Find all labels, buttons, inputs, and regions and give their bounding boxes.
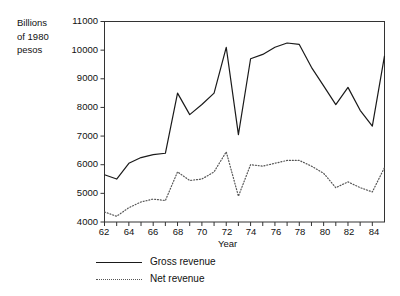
- legend-label-gross-revenue: Gross revenue: [150, 256, 216, 267]
- legend-swatch-dotted-line-icon: [96, 274, 142, 284]
- legend-label-net-revenue: Net revenue: [150, 273, 204, 284]
- x-axis-ticks: [105, 222, 373, 226]
- legend-item-gross-revenue: Gross revenue: [96, 253, 216, 270]
- legend-swatch-solid-line-icon: [96, 257, 142, 267]
- y-axis-ticks: [101, 22, 105, 223]
- legend-item-net-revenue: Net revenue: [96, 270, 216, 287]
- axis-frame: [105, 22, 385, 223]
- series-line-gross-revenue: [105, 43, 385, 179]
- legend: Gross revenue Net revenue: [96, 253, 216, 287]
- revenue-line-chart: Billions of 1980 pesos 11000 10000 9000 …: [0, 0, 400, 296]
- series-line-net-revenue: [105, 152, 385, 216]
- plot-area: [0, 0, 400, 296]
